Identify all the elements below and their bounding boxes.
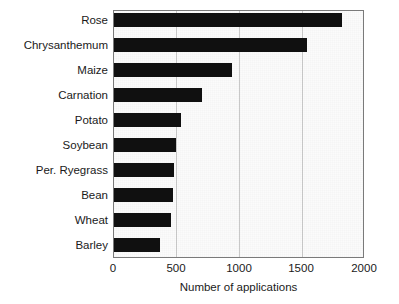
bar-row [114, 13, 363, 27]
x-tick-label-500: 500 [166, 261, 185, 275]
bar-soybean [114, 138, 176, 152]
category-label-chrysanthemum: Chrysanthemum [0, 38, 108, 52]
bar-row [114, 113, 363, 127]
category-label-maize: Maize [0, 63, 108, 77]
category-label-bean: Bean [0, 188, 108, 202]
category-label-potato: Potato [0, 113, 108, 127]
x-axis-title: Number of applications [113, 280, 364, 294]
category-label-wheat: Wheat [0, 213, 108, 227]
bar-row [114, 213, 363, 227]
bar-chrysanthemum [114, 38, 307, 52]
x-tick-label-2000: 2000 [351, 261, 377, 275]
category-label-carnation: Carnation [0, 88, 108, 102]
bar-wheat [114, 213, 171, 227]
category-label-rose: Rose [0, 13, 108, 27]
bar-per-ryegrass [114, 163, 174, 177]
bar-bean [114, 188, 173, 202]
bar-row [114, 238, 363, 252]
category-label-per-ryegrass: Per. Ryegrass [0, 163, 108, 177]
x-tick-label-1500: 1500 [288, 261, 314, 275]
bar-row [114, 38, 363, 52]
bar-rose [114, 13, 342, 27]
bar-carnation [114, 88, 202, 102]
bar-row [114, 163, 363, 177]
bars-layer [114, 11, 363, 257]
x-tick-label-1000: 1000 [226, 261, 252, 275]
bar-row [114, 88, 363, 102]
category-axis-labels: Rose Chrysanthemum Maize Carnation Potat… [0, 10, 108, 258]
bar-barley [114, 238, 160, 252]
x-tick-label-0: 0 [110, 261, 116, 275]
bar-potato [114, 113, 181, 127]
bar-maize [114, 63, 232, 77]
plot-area [113, 10, 364, 258]
category-label-barley: Barley [0, 238, 108, 252]
bar-row [114, 138, 363, 152]
category-label-soybean: Soybean [0, 138, 108, 152]
bar-row [114, 188, 363, 202]
bar-row [114, 63, 363, 77]
bar-chart: Rose Chrysanthemum Maize Carnation Potat… [0, 0, 399, 304]
